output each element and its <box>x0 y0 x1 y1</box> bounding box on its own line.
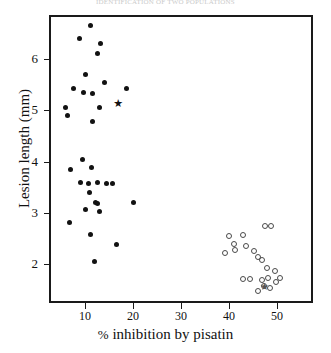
y-axis-tick-label: 3 <box>22 206 38 219</box>
data-point-filled <box>110 181 115 186</box>
data-point-filled <box>86 181 91 186</box>
data-point-filled <box>63 105 68 110</box>
data-point-filled <box>104 181 109 186</box>
data-point-open <box>247 276 253 282</box>
y-axis-tick-mark <box>44 59 49 60</box>
data-point-filled <box>124 86 129 91</box>
data-point-filled <box>68 167 73 172</box>
data-point-filled <box>71 86 76 91</box>
data-point-open <box>264 265 270 271</box>
y-axis-tick-mark <box>44 110 49 111</box>
data-point-filled <box>92 259 97 264</box>
data-point-filled <box>89 165 94 170</box>
data-point-filled <box>90 119 95 124</box>
x-axis-tick-label: 50 <box>266 310 288 322</box>
percent-symbol: % <box>98 327 109 342</box>
plot-data-area: ★★ <box>49 15 313 303</box>
data-point-filled <box>80 157 85 162</box>
data-point-filled <box>77 36 82 41</box>
data-point-filled <box>88 23 93 28</box>
data-point-filled <box>98 41 103 46</box>
y-axis-tick-label: 4 <box>22 155 38 168</box>
data-point-open <box>259 257 265 263</box>
x-axis-title-text: inhibition by pisatin <box>112 326 233 342</box>
y-axis-tick-mark <box>44 264 49 265</box>
data-point-star-filled: ★ <box>113 99 122 108</box>
y-axis-tick-label: 6 <box>22 52 38 65</box>
data-point-filled <box>131 200 136 205</box>
data-point-filled <box>90 91 95 96</box>
x-axis-title: % inhibition by pisatin <box>0 326 331 343</box>
data-point-filled <box>78 180 83 185</box>
data-point-filled <box>83 72 88 77</box>
data-point-open <box>273 279 279 285</box>
data-point-open <box>240 276 246 282</box>
y-axis-tick-mark <box>44 213 49 214</box>
data-point-filled <box>95 51 100 56</box>
scatter-plot-figure: IDENTIFICATION OF TWO POPULATIONS ★★ Les… <box>0 0 331 353</box>
x-axis-tick-label: 40 <box>218 310 240 322</box>
data-point-filled <box>88 232 93 237</box>
data-point-filled <box>114 242 119 247</box>
data-point-filled <box>65 113 70 118</box>
x-axis-tick-label: 20 <box>122 310 144 322</box>
data-point-filled <box>102 80 107 85</box>
data-point-open <box>268 223 274 229</box>
data-point-open <box>251 248 257 254</box>
data-point-filled <box>83 207 88 212</box>
data-point-filled <box>95 201 100 206</box>
data-point-open <box>232 247 238 253</box>
data-point-filled <box>97 209 102 214</box>
data-point-filled <box>67 220 72 225</box>
data-point-filled <box>81 90 86 95</box>
y-axis-tick-label: 5 <box>22 103 38 116</box>
data-point-open <box>243 243 249 249</box>
data-point-open <box>222 250 228 256</box>
data-point-open <box>240 232 246 238</box>
y-axis-tick-label: 2 <box>22 257 38 270</box>
data-point-filled <box>97 105 102 110</box>
y-axis-tick-mark <box>44 162 49 163</box>
data-point-filled <box>87 190 92 195</box>
data-point-open <box>272 268 278 274</box>
data-point-filled <box>95 180 100 185</box>
figure-header-caption: IDENTIFICATION OF TWO POPULATIONS <box>0 0 331 6</box>
data-point-open <box>226 233 232 239</box>
x-axis-tick-label: 30 <box>170 310 192 322</box>
x-axis-tick-label: 10 <box>74 310 96 322</box>
data-point-open <box>262 223 268 229</box>
data-point-star-open: ★ <box>260 282 269 291</box>
